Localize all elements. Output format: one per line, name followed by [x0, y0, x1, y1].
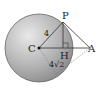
- label-c: C: [28, 43, 36, 54]
- label-p: P: [62, 10, 69, 21]
- center-dot: [38, 47, 41, 50]
- label-a: A: [87, 43, 96, 54]
- label-lower-length: 4√2: [49, 60, 64, 69]
- sphere-diagram: C P H A 4 4√2: [0, 0, 100, 92]
- label-cp-length: 4: [44, 29, 49, 38]
